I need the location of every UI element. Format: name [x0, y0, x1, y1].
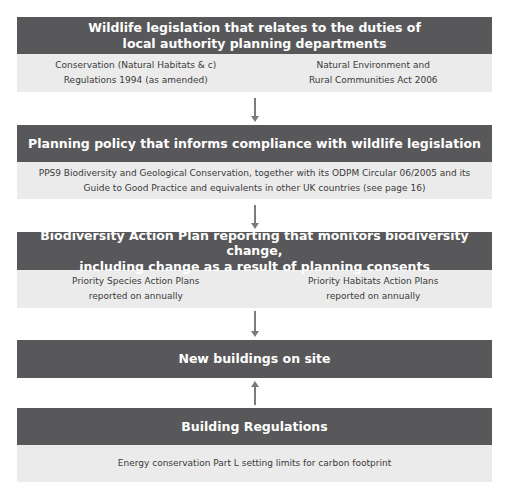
box-header: Biodiversity Action Plan reporting that … — [17, 232, 492, 270]
legislation-item: Conservation (Natural Habitats & c) Regu… — [17, 58, 255, 88]
box-body: Energy conservation Part L setting limit… — [17, 445, 492, 482]
box-title-line: Biodiversity Action Plan reporting that … — [25, 228, 484, 259]
action-plan-item: Priority Species Action Plans reported o… — [17, 274, 255, 304]
box-title: Planning policy that informs compliance … — [28, 136, 481, 152]
legislation-item: Natural Environment and Rural Communitie… — [255, 58, 493, 88]
box-title: New buildings on site — [178, 351, 330, 367]
box-title-line: including change as a result of planning… — [25, 259, 484, 275]
box-header: Wildlife legislation that relates to the… — [17, 17, 492, 54]
new-buildings-box: New buildings on site — [17, 340, 492, 378]
box-title-line: local authority planning departments — [88, 36, 421, 52]
action-plan-item: Priority Habitats Action Plans reported … — [255, 274, 493, 304]
down-arrow-icon — [254, 98, 256, 117]
box-header: Building Regulations — [17, 408, 492, 445]
box-body: Priority Species Action Plans reported o… — [17, 270, 492, 308]
down-arrow-icon — [254, 311, 256, 332]
box-header: Planning policy that informs compliance … — [17, 125, 492, 162]
up-arrow-icon — [254, 386, 256, 405]
box-body: Conservation (Natural Habitats & c) Regu… — [17, 54, 492, 92]
wildlife-legislation-box: Wildlife legislation that relates to the… — [17, 17, 492, 92]
down-arrow-icon — [254, 205, 256, 224]
box-title-line: Wildlife legislation that relates to the… — [88, 20, 421, 36]
box-header: New buildings on site — [17, 340, 492, 378]
bap-reporting-box: Biodiversity Action Plan reporting that … — [17, 232, 492, 308]
box-title: Building Regulations — [181, 419, 327, 435]
building-regulations-box: Building Regulations Energy conservation… — [17, 408, 492, 482]
box-body: PPS9 Biodiversity and Geological Conserv… — [17, 162, 492, 199]
planning-policy-box: Planning policy that informs compliance … — [17, 125, 492, 199]
